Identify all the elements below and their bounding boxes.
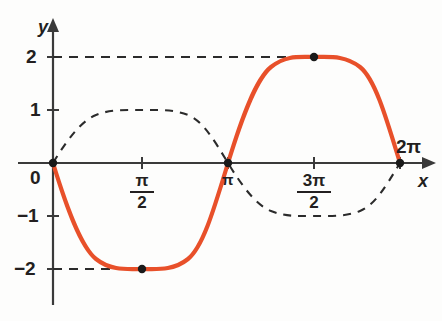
y-tick-label-0: 0 [30, 168, 41, 187]
point-origin [49, 159, 57, 167]
y-tick-label-1: 1 [30, 100, 41, 119]
three-pi-over-2-denominator: 2 [297, 194, 331, 212]
sine-function-chart: 2 1 0 −1 −2 π 2 π 3π 2 2π y x [0, 0, 442, 321]
point-zero-crossing [224, 159, 232, 167]
x-axis-name: x [418, 172, 428, 190]
pi-over-2-denominator: 2 [130, 194, 154, 212]
y-axis-name: y [38, 18, 48, 36]
pi-over-2-numerator: π [130, 172, 154, 190]
point-minimum [138, 265, 146, 273]
y-tick-label-2: 2 [26, 47, 37, 66]
three-pi-over-2-numerator: 3π [297, 172, 331, 190]
point-end-zero [396, 159, 404, 167]
plot-canvas [0, 0, 442, 321]
x-tick-label-3pi-over-2: 3π 2 [297, 172, 331, 212]
x-tick-label-2pi: 2π [396, 137, 421, 156]
y-tick-label-minus-1: −1 [17, 206, 39, 225]
x-tick-label-pi-over-2: π 2 [130, 172, 154, 212]
x-tick-label-pi: π [222, 172, 233, 187]
point-maximum [310, 53, 318, 61]
y-tick-label-minus-2: −2 [14, 259, 36, 278]
